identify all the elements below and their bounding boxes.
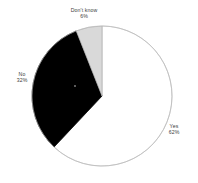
pie-label-no: No 32% bbox=[6, 71, 38, 83]
pie-label-dont-know: Don't know 6% bbox=[62, 7, 106, 19]
pie-label-dont-know-percent: 6% bbox=[62, 13, 106, 19]
pie-label-yes-percent: 62% bbox=[160, 129, 188, 135]
pie-label-yes: Yes 62% bbox=[160, 123, 188, 135]
pie-chart-svg bbox=[0, 0, 198, 183]
pie-label-no-percent: 32% bbox=[6, 77, 38, 83]
pie-chart: Don't know 6% No 32% Yes 62% bbox=[0, 0, 198, 183]
pie-center-marker bbox=[74, 85, 76, 87]
